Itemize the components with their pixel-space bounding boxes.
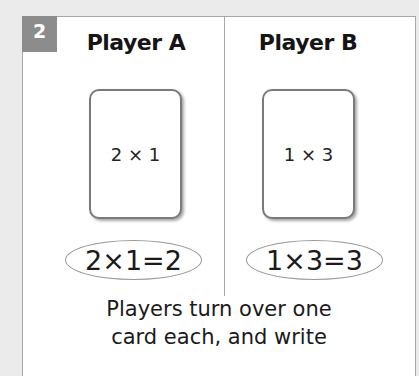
instructions-text: Players turn over one card each, and wri…: [22, 295, 416, 351]
player-b-title: Player B: [218, 30, 398, 55]
instructions-line-2: card each, and write: [22, 323, 416, 351]
column-divider: [224, 16, 225, 296]
player-a-card: 2 × 1: [89, 89, 182, 219]
instructions-line-1: Players turn over one: [22, 295, 416, 323]
player-b-equation: 1×3=3: [246, 240, 383, 280]
player-a-equation: 2×1=2: [65, 240, 202, 280]
player-b-card: 1 × 3: [262, 89, 355, 219]
player-a-title: Player A: [46, 30, 226, 55]
